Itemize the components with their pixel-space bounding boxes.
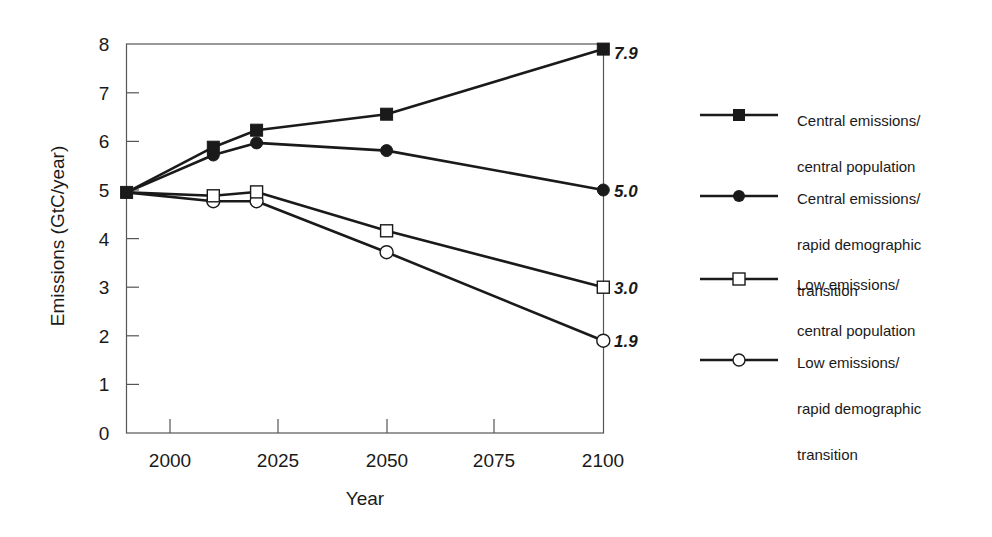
y-axis-tick-labels: 0 1 2 3 4 5 6 7 8 [99, 34, 110, 444]
y-tick-label: 2 [99, 326, 110, 347]
y-tick-label: 5 [99, 180, 110, 201]
legend-label: Low emissions/ rapid demographic transit… [797, 328, 921, 489]
x-tick-label: 2075 [473, 450, 515, 471]
y-tick-label: 8 [99, 34, 110, 55]
end-label-central-rapid: 5.0 [614, 182, 638, 201]
y-tick-label: 6 [99, 131, 110, 152]
filled-square-marker [251, 124, 263, 136]
y-tick-label: 3 [99, 277, 110, 298]
series-central-rapid-markers [207, 137, 609, 196]
filled-square-marker [597, 43, 609, 55]
filled-circle-marker [251, 137, 263, 149]
series-central-central-markers [121, 43, 610, 198]
x-axis-title: Year [346, 488, 385, 509]
series-low-central-line [127, 192, 604, 287]
end-label-low-rapid: 1.9 [614, 332, 638, 351]
x-axis-tick-labels: 2000 2025 2050 2075 2100 [149, 450, 624, 471]
series-central-rapid-line [127, 143, 604, 193]
filled-square-line-icon [700, 108, 778, 122]
y-tick-label: 4 [99, 229, 110, 250]
end-label-low-central: 3.0 [614, 279, 638, 298]
open-square-line-icon [700, 272, 778, 286]
series-lines [127, 49, 604, 341]
filled-square-marker [121, 186, 133, 198]
open-circle-marker [597, 334, 610, 347]
filled-circle-line-icon [700, 189, 778, 203]
x-tick-label: 2000 [149, 450, 191, 471]
series-central-central-line [127, 49, 604, 192]
open-square-marker [597, 281, 609, 293]
filled-circle-marker [597, 184, 609, 196]
open-circle-line-icon [700, 353, 778, 367]
series-low-central-markers [207, 186, 609, 293]
x-tick-label: 2100 [582, 450, 624, 471]
series-low-rapid-markers [207, 195, 610, 348]
filled-circle-marker [381, 145, 393, 157]
y-tick-label: 0 [99, 423, 110, 444]
y-tick-label: 7 [99, 83, 110, 104]
open-circle-marker [380, 246, 393, 259]
series-low-rapid-line [127, 192, 604, 340]
end-label-central-central: 7.9 [614, 44, 638, 63]
x-axis-ticks [170, 419, 494, 433]
y-axis-title: Emissions (GtC/year) [47, 146, 68, 327]
open-square-marker [381, 225, 393, 237]
end-value-labels: 7.9 5.0 3.0 1.9 [614, 44, 638, 351]
y-tick-label: 1 [99, 374, 110, 395]
open-square-marker [251, 186, 263, 198]
x-tick-label: 2050 [366, 450, 408, 471]
plot-frame [127, 44, 604, 433]
filled-square-marker [381, 108, 393, 120]
filled-square-marker [207, 141, 219, 153]
y-axis-ticks [127, 93, 140, 385]
x-tick-label: 2025 [257, 450, 299, 471]
open-square-marker [207, 190, 219, 202]
